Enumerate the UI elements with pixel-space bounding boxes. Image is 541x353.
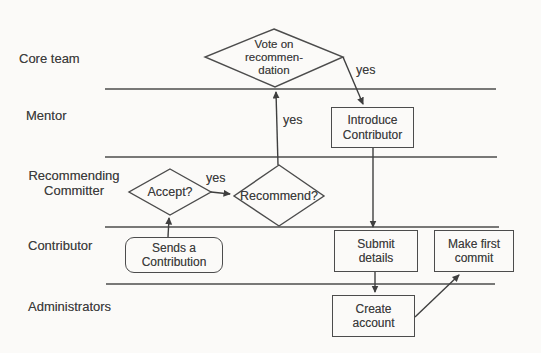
arrow-accept-to-recommend	[211, 192, 230, 194]
flowchart-canvas: Core team Mentor Recommending Committer …	[0, 0, 541, 353]
lane-label-core-team: Core team	[19, 52, 80, 67]
make-first-commit-box: Make first commit	[434, 230, 514, 272]
lane-label-administrators: Administrators	[28, 300, 111, 315]
sends-a-contribution-box: Sends a Contribution	[125, 237, 223, 273]
lane-label-contributor: Contributor	[28, 239, 92, 254]
arrow-create-to-make-first	[415, 275, 459, 317]
edge-label-yes-accept: yes	[206, 171, 225, 185]
recommend-decision-label: Recommend?	[232, 189, 326, 203]
arrow-recommend-to-vote	[276, 92, 278, 165]
introduce-contributor-box: Introduce Contributor	[331, 107, 414, 148]
arrow-sends-to-accept	[168, 218, 169, 237]
lane-label-mentor: Mentor	[26, 109, 66, 124]
create-account-box: Create account	[332, 295, 415, 337]
edge-label-yes-recommend: yes	[283, 113, 302, 127]
lane-label-recommending-committer: Recommending Committer	[20, 169, 128, 198]
accept-decision-label: Accept?	[129, 185, 211, 199]
submit-details-box: Submit details	[334, 230, 418, 272]
vote-decision-label: Vote on recommen- dation	[205, 38, 343, 77]
edge-label-yes-vote: yes	[356, 63, 375, 77]
